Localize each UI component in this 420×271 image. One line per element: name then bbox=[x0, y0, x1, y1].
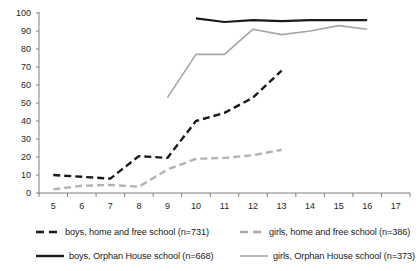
y-tick-label: 40 bbox=[21, 116, 31, 126]
x-axis-tick-labels: 567891011121314151617 bbox=[51, 201, 401, 211]
legend-label: boys, home and free school (n=731) bbox=[65, 227, 209, 237]
legend-line-icon bbox=[240, 228, 264, 236]
legend-label: girls, Orphan House school (n=373) bbox=[273, 251, 415, 261]
y-tick-label: 20 bbox=[21, 152, 31, 162]
y-tick-label: 90 bbox=[21, 26, 31, 36]
y-tick-label: 80 bbox=[21, 44, 31, 54]
x-tick-label: 5 bbox=[51, 201, 56, 211]
legend-swatch-dashed-grey bbox=[240, 228, 264, 236]
legend-swatch-solid-black bbox=[36, 252, 64, 260]
x-tick-label: 7 bbox=[108, 201, 113, 211]
x-tick-label: 6 bbox=[79, 201, 84, 211]
y-tick-label: 30 bbox=[21, 134, 31, 144]
y-axis-tick-labels: 0102030405060708090100 bbox=[16, 8, 31, 198]
legend-item[interactable]: boys, home and free school (n=731) bbox=[0, 220, 236, 244]
legend-row: boys, Orphan House school (n=668)girls, … bbox=[0, 244, 420, 268]
series-line-0 bbox=[53, 71, 281, 179]
x-tick-label: 12 bbox=[248, 201, 258, 211]
x-tick-label: 14 bbox=[305, 201, 315, 211]
data-series-group bbox=[53, 18, 367, 189]
legend-line-icon bbox=[36, 228, 60, 236]
legend-label: girls, home and free school (n=386) bbox=[269, 227, 410, 237]
x-tick-label: 9 bbox=[165, 201, 170, 211]
axis-lines bbox=[36, 12, 410, 197]
y-tick-label: 0 bbox=[26, 188, 31, 198]
x-tick-label: 16 bbox=[362, 201, 372, 211]
x-tick-label: 11 bbox=[220, 201, 229, 211]
series-line-3 bbox=[167, 26, 367, 98]
legend-line-icon bbox=[240, 252, 268, 260]
series-line-1 bbox=[53, 150, 281, 190]
y-tick-label: 10 bbox=[21, 170, 31, 180]
chart-container: 0102030405060708090100 56789101112131415… bbox=[0, 0, 420, 271]
series-line-2 bbox=[196, 18, 367, 22]
x-tick-label: 8 bbox=[136, 201, 141, 211]
x-tick-label: 15 bbox=[334, 201, 344, 211]
y-tick-label: 70 bbox=[21, 62, 31, 72]
legend-row: boys, home and free school (n=731)girls,… bbox=[0, 220, 420, 244]
legend-line-icon bbox=[36, 252, 64, 260]
legend-item[interactable]: girls, Orphan House school (n=373) bbox=[236, 244, 420, 268]
legend-label: boys, Orphan House school (n=668) bbox=[69, 251, 214, 261]
y-tick-label: 100 bbox=[16, 8, 31, 18]
x-tick-label: 13 bbox=[277, 201, 287, 211]
y-tick-label: 60 bbox=[21, 80, 31, 90]
legend-swatch-dashed-black bbox=[36, 228, 60, 236]
y-tick-label: 50 bbox=[21, 98, 31, 108]
legend-item[interactable]: boys, Orphan House school (n=668) bbox=[0, 244, 236, 268]
legend-swatch-solid-grey bbox=[240, 252, 268, 260]
plot-area: 0102030405060708090100 56789101112131415… bbox=[0, 0, 420, 220]
x-tick-label: 10 bbox=[191, 201, 201, 211]
legend-item[interactable]: girls, home and free school (n=386) bbox=[236, 220, 420, 244]
chart-legend: boys, home and free school (n=731)girls,… bbox=[0, 216, 420, 271]
x-tick-label: 17 bbox=[391, 201, 401, 211]
line-chart-svg: 0102030405060708090100 56789101112131415… bbox=[0, 0, 420, 220]
